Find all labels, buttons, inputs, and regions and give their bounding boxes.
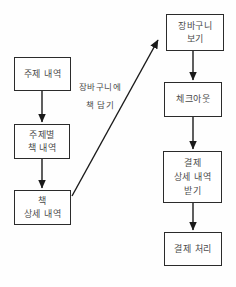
node-checkout: 체크아웃: [164, 82, 222, 117]
node-subject-list: 주제 내역: [14, 57, 71, 91]
node-book-detail: 책 상세 내역: [14, 190, 71, 225]
node-books-by-subject: 주제별 책 내역: [14, 124, 70, 159]
arrow-bookdetail-to-cart: [72, 40, 158, 196]
node-get-payment-details: 결제 상세 내역 받기: [163, 151, 222, 203]
flowchart-diagram: 주제 내역 주제별 책 내역 책 상세 내역 장바구니 보기 체크아웃 결제 상…: [0, 0, 236, 287]
node-view-cart: 장바구니 보기: [166, 14, 224, 51]
node-process-payment: 결제 처리: [164, 232, 222, 266]
edge-label-add-to-cart: 장바구니에 책 담기: [73, 79, 127, 114]
